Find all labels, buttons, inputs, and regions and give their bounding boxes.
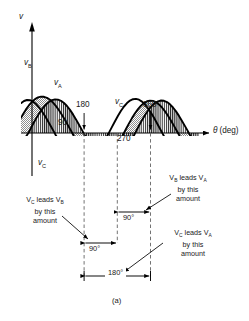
annotation-vc-leads-vb-line3: amount: [14, 217, 76, 226]
v-c-lower-sub: C: [42, 163, 46, 169]
v-a-sub: A: [58, 83, 62, 89]
annotation-vb-leads-va-line3: amount: [155, 195, 221, 204]
ann1-s2: A: [203, 178, 206, 183]
theta-symbol: θ: [213, 126, 217, 135]
annotation-vc-leads-va: VC leads VA by this amount: [160, 229, 226, 258]
figure-caption: (a): [112, 297, 121, 306]
figure-container: v θ(deg) vB vA vC vC 90 180 270 360 VC l…: [0, 0, 249, 321]
ann2-s2: A: [209, 233, 212, 238]
leader-arrows: [62, 194, 171, 272]
dim-label-90-right: 90°: [123, 214, 134, 223]
ann0-s2: B: [61, 200, 64, 205]
tick-label-180: 180: [76, 100, 90, 109]
tick-label-360: 360: [143, 100, 157, 109]
dim-label-90-left: 90°: [89, 245, 100, 254]
v-b-sub: B: [28, 63, 32, 69]
tick-label-270: 270: [117, 134, 131, 143]
y-axis-arrow: [29, 22, 35, 32]
ann1-mid: leads V: [177, 173, 203, 182]
v-c-upper-sub: C: [119, 102, 123, 108]
tick-label-90: 90: [58, 118, 67, 127]
ann2-mid: leads V: [183, 228, 209, 237]
leader-vc-leads-va: [124, 243, 163, 272]
ann0-mid: leads V: [35, 195, 61, 204]
dim-label-180: 180°: [105, 269, 126, 278]
annotation-vc-leads-vb: VC leads VB by this amount: [14, 196, 76, 225]
y-axis-label: v: [19, 12, 23, 21]
v-c-lower-label: vC: [38, 158, 46, 169]
v-a-label: vA: [54, 78, 62, 89]
annotation-vc-leads-va-line3: amount: [160, 250, 226, 259]
x-axis-label: θ(deg): [213, 126, 239, 135]
v-c-upper-label: vC: [115, 97, 123, 108]
v-b-label: vB: [24, 58, 32, 69]
construction-lines: [84, 133, 150, 276]
annotation-vb-leads-va: VB leads VA by this amount: [155, 174, 221, 203]
deg-unit: (deg): [219, 126, 238, 135]
